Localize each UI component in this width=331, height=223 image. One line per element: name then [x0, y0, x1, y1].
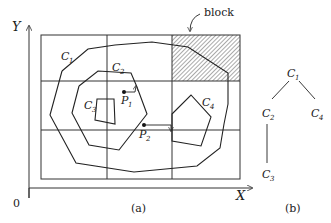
- svg-text:4: 4: [318, 114, 323, 122]
- contour-c3: [95, 99, 115, 124]
- tree-node-c4: C 4: [311, 107, 323, 122]
- block-label: block: [204, 6, 234, 19]
- label-c1: C 1: [61, 50, 73, 65]
- tree-node-c1: C 1: [287, 67, 299, 82]
- label-p1: P 1: [120, 94, 132, 109]
- svg-text:3: 3: [92, 106, 97, 114]
- shaded-block: [172, 35, 240, 81]
- containment-tree: [267, 81, 315, 163]
- origin-label: 0: [13, 197, 20, 210]
- caption-a: (a): [131, 202, 146, 215]
- svg-text:1: 1: [295, 74, 299, 82]
- svg-text:4: 4: [209, 103, 214, 111]
- tree-node-c3: C 3: [262, 168, 275, 183]
- svg-text:3: 3: [270, 175, 275, 183]
- svg-text:2: 2: [269, 114, 275, 122]
- label-c2: C 2: [112, 61, 125, 76]
- axis-y-label: Y: [12, 19, 22, 34]
- label-c4: C 4: [202, 96, 214, 111]
- point-p1: [122, 86, 136, 94]
- block-pointer: [190, 14, 200, 31]
- svg-text:1: 1: [69, 57, 73, 65]
- contour-diagram: Y X 0 block (a) C 1 C 2 C 3 C 4 P 1 P 2 …: [0, 0, 331, 223]
- svg-text:2: 2: [145, 135, 151, 143]
- svg-text:2: 2: [119, 68, 125, 76]
- svg-text:1: 1: [128, 101, 132, 109]
- caption-b: (b): [285, 202, 301, 215]
- tree-node-c2: C 2: [262, 107, 275, 122]
- label-c3: C 3: [84, 99, 97, 114]
- axis-x-label: X: [235, 188, 246, 203]
